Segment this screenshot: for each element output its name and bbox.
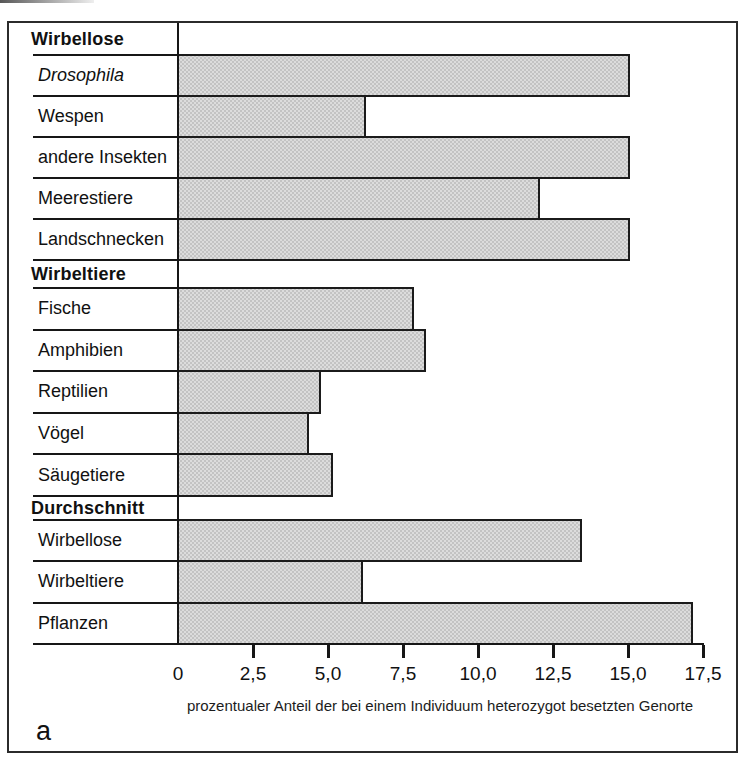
row-label: Wespen <box>38 96 104 137</box>
x-tick-mark <box>702 645 705 658</box>
x-axis-title: prozentualer Anteil der bei einem Indivi… <box>150 697 730 714</box>
row-label: Drosophila <box>38 55 124 96</box>
bar <box>177 370 321 414</box>
figure-canvas: WirbelloseDrosophilaWespenandere Insekte… <box>0 0 755 775</box>
x-tick-mark <box>627 645 630 658</box>
plot-area: WirbelloseDrosophilaWespenandere Insekte… <box>0 0 755 775</box>
row-label: Fische <box>38 288 91 330</box>
row-label: Säugetiere <box>38 454 125 496</box>
bar <box>177 54 630 97</box>
y-baseline <box>177 23 179 645</box>
x-tick-label: 17,5 <box>668 663 738 685</box>
bar <box>177 453 333 497</box>
bar <box>177 287 414 331</box>
section-header: Wirbellose <box>31 23 124 55</box>
bar <box>177 519 582 562</box>
section-header: Durchschnitt <box>31 496 144 520</box>
bar <box>177 218 630 261</box>
x-tick-label: 5,0 <box>293 663 363 685</box>
x-tick-label: 10,0 <box>443 663 513 685</box>
x-tick-mark <box>327 645 330 658</box>
x-tick-mark <box>402 645 405 658</box>
x-tick-label: 12,5 <box>518 663 588 685</box>
row-label: Vögel <box>38 413 84 455</box>
x-tick-mark <box>477 645 480 658</box>
row-label: Pflanzen <box>38 603 108 644</box>
row-label: Meerestiere <box>38 178 133 219</box>
row-label: Reptilien <box>38 371 108 413</box>
x-axis-line <box>33 643 704 645</box>
x-tick-label: 0 <box>143 663 213 685</box>
section-header: Wirbeltiere <box>31 260 126 288</box>
bar <box>177 177 540 220</box>
bar <box>177 602 693 645</box>
bar <box>177 560 363 603</box>
bar <box>177 136 630 179</box>
x-tick-label: 2,5 <box>218 663 288 685</box>
x-tick-mark <box>252 645 255 658</box>
row-label: Landschnecken <box>38 219 164 260</box>
x-tick-label: 7,5 <box>368 663 438 685</box>
bar <box>177 412 309 456</box>
x-tick-label: 15,0 <box>593 663 663 685</box>
bar <box>177 95 366 138</box>
x-tick-mark <box>552 645 555 658</box>
row-label: Wirbeltiere <box>38 561 124 602</box>
figure-panel-letter: a <box>36 716 51 747</box>
bar <box>177 329 426 373</box>
row-label: andere Insekten <box>38 137 167 178</box>
row-label: Wirbellose <box>38 520 122 561</box>
row-label: Amphibien <box>38 330 123 372</box>
